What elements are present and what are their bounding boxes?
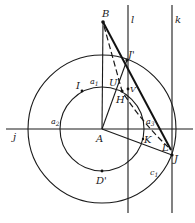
label-B: B <box>101 8 109 19</box>
label-Jprime: J' <box>126 49 135 60</box>
segment-AB <box>102 22 103 129</box>
label-Dprime: D' <box>95 175 107 186</box>
label-A: A <box>95 133 103 144</box>
label-K: K <box>143 134 152 145</box>
label-L: L <box>161 142 169 153</box>
label-line-j: j <box>11 131 16 142</box>
geometry-diagram: B A J' J L K H V U' I D' j l k a1 a2 a3 … <box>0 0 195 223</box>
point-B <box>101 20 105 24</box>
point-I <box>81 90 84 93</box>
label-J: J <box>172 153 179 164</box>
label-line-l: l <box>131 14 134 25</box>
point-H <box>120 89 123 92</box>
point-Dprime <box>101 170 104 173</box>
diagram-svg: B A J' J L K H V U' I D' j l k a1 a2 a3 … <box>0 0 195 223</box>
label-U: U' <box>109 77 120 88</box>
point-V <box>127 88 130 91</box>
label-line-k: k <box>175 14 181 25</box>
label-I: I <box>75 80 81 91</box>
label-arc-a1: a1 <box>90 77 99 87</box>
label-H: H <box>115 94 125 105</box>
label-V: V <box>130 85 137 94</box>
label-arc-a2: a2 <box>51 117 60 127</box>
label-circle-c1: c1 <box>150 168 158 178</box>
